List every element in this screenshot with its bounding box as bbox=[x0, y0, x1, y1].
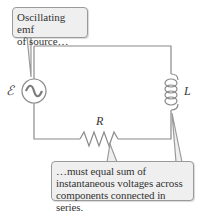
callout-sum-line: instantaneous voltages across bbox=[56, 177, 189, 189]
callout-source-line: of source… bbox=[17, 35, 83, 47]
bottom-right-wire bbox=[118, 110, 171, 139]
inductor-label: L bbox=[184, 84, 191, 99]
resistor-icon bbox=[80, 132, 118, 146]
emf-label: ℰ bbox=[6, 83, 14, 99]
left-wire-bottom bbox=[34, 103, 80, 139]
resistor-label: R bbox=[96, 114, 103, 129]
callout-sum-of-voltages: …must equal sum of instantaneous voltage… bbox=[51, 161, 194, 201]
callout-sum-line: …must equal sum of bbox=[56, 165, 189, 177]
callout-source-line: Oscillating emf bbox=[17, 11, 83, 35]
callout-sum-line: components connected in series. bbox=[56, 189, 189, 213]
top-wire bbox=[34, 46, 171, 74]
callout-oscillating-emf: Oscillating emf of source… bbox=[12, 7, 88, 38]
callout-sum-pointer-resistor bbox=[107, 144, 117, 162]
callout-sum-pointer-inductor bbox=[172, 113, 182, 162]
inductor-coils bbox=[165, 79, 177, 105]
